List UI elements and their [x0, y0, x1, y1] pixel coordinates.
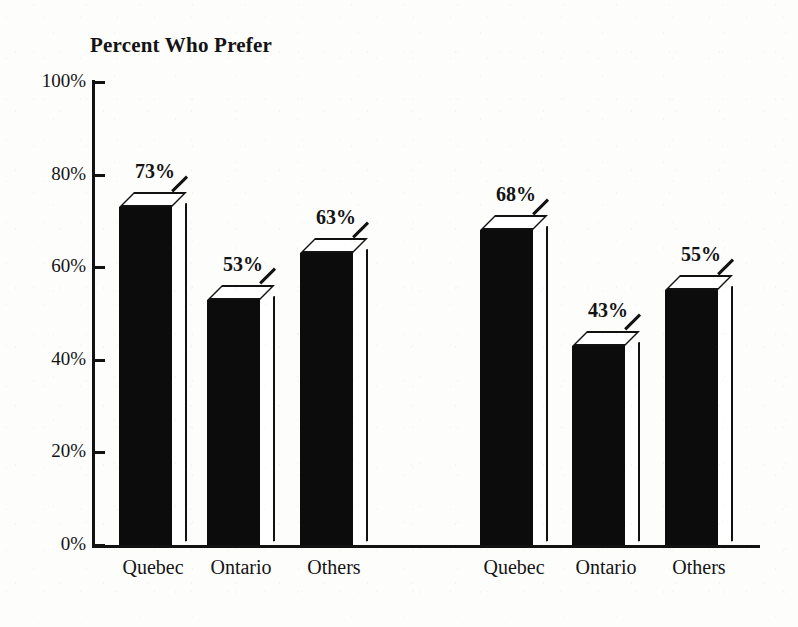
- bar-value-label: 63%: [302, 206, 370, 229]
- y-axis-tick-label: 80%: [12, 163, 86, 185]
- bar-top-face: [207, 285, 275, 300]
- y-axis-tick: [95, 451, 105, 454]
- y-axis-tick: [95, 266, 105, 269]
- bar-front-face: [665, 290, 718, 545]
- bar[interactable]: [665, 275, 718, 545]
- y-axis-tick: [95, 359, 105, 362]
- bar[interactable]: [480, 215, 533, 545]
- category-label: Quebec: [464, 556, 564, 579]
- y-axis-tick: [95, 81, 105, 84]
- category-label: Others: [649, 556, 749, 579]
- y-axis-line: [92, 80, 95, 547]
- y-axis-tick-label: 100%: [12, 70, 86, 92]
- category-label: Ontario: [556, 556, 656, 579]
- bar-front-face: [119, 207, 172, 545]
- bar[interactable]: [572, 331, 625, 545]
- bar-value-label: 55%: [667, 243, 735, 266]
- y-axis-tick-label: 40%: [12, 348, 86, 370]
- bar-side-face: [625, 342, 640, 545]
- y-axis-tick-label: 0%: [12, 533, 86, 555]
- bar-side-face: [533, 226, 548, 545]
- x-axis-line: [92, 545, 760, 548]
- bar-side-face: [260, 296, 275, 545]
- page-title: Percent Who Prefer: [90, 33, 272, 58]
- y-axis-tick-label: 60%: [12, 255, 86, 277]
- bar[interactable]: [207, 285, 260, 545]
- bar-value-label: 68%: [482, 183, 550, 206]
- bar-value-label: 53%: [209, 253, 277, 276]
- bar-side-face: [353, 249, 368, 545]
- category-label: Ontario: [191, 556, 291, 579]
- chart-canvas: Percent Who Prefer 100%80%60%40%20%0% 73…: [0, 0, 798, 627]
- bar-front-face: [480, 230, 533, 545]
- bar-value-label: 43%: [574, 299, 642, 322]
- y-axis-tick: [95, 174, 105, 177]
- bar-side-face: [172, 203, 187, 545]
- bar-side-face: [718, 286, 733, 545]
- bar-front-face: [207, 300, 260, 545]
- bar-value-label: 73%: [121, 160, 189, 183]
- y-axis-tick: [95, 544, 105, 547]
- bar[interactable]: [119, 192, 172, 545]
- category-label: Quebec: [103, 556, 203, 579]
- bar-front-face: [572, 346, 625, 545]
- y-axis-tick-label: 20%: [12, 440, 86, 462]
- bar[interactable]: [300, 238, 353, 545]
- category-label: Others: [284, 556, 384, 579]
- bar-front-face: [300, 253, 353, 545]
